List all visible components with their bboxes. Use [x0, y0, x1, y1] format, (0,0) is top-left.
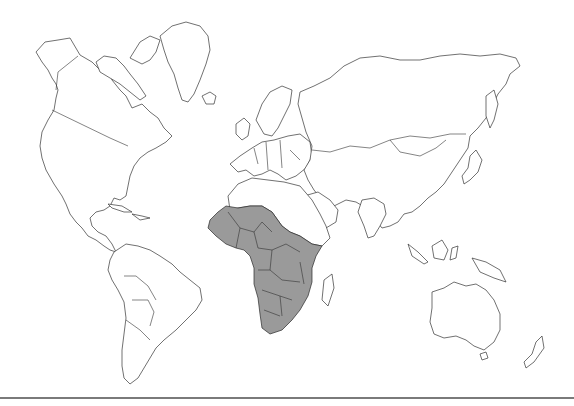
region-new-zealand: [524, 336, 544, 368]
region-new-guinea: [472, 258, 506, 282]
region-australia: [430, 282, 500, 350]
region-borneo: [432, 240, 448, 260]
region-uk: [236, 118, 250, 140]
region-sulawesi: [450, 246, 458, 260]
region-japan: [462, 150, 482, 184]
region-europe: [230, 134, 312, 180]
region-cuba: [108, 204, 132, 212]
region-tasmania: [480, 352, 488, 360]
world-map: [0, 0, 574, 398]
region-baffin-island: [130, 36, 160, 64]
region-madagascar: [322, 274, 334, 306]
region-greenland: [160, 22, 210, 102]
region-india: [358, 198, 386, 238]
region-hispaniola: [132, 214, 150, 220]
bottom-separator: [0, 397, 574, 399]
region-sumatra: [408, 244, 428, 264]
region-scandinavia: [256, 86, 292, 136]
region-iceland: [202, 92, 216, 104]
region-south-america: [108, 244, 202, 384]
